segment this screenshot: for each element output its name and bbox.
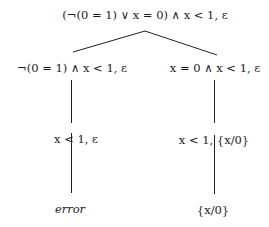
left-leaf-label: error: [55, 202, 85, 216]
edge-root-right: [145, 31, 217, 55]
right-label: x = 0 ∧ x < 1, ε: [170, 61, 261, 75]
right-child-label: x < 1, {x/0}: [179, 133, 249, 147]
root-label: (¬(0 = 1) ∨ x = 0) ∧ x < 1, ε: [62, 8, 227, 22]
left-label: ¬(0 = 1) ∧ x < 1, ε: [17, 61, 127, 75]
right-leaf-label: {x/0}: [197, 203, 229, 217]
right-child-node: x < 1, {x/0}: [179, 133, 249, 147]
left-leaf-node: error: [55, 202, 85, 216]
left-node: ¬(0 = 1) ∧ x < 1, ε: [17, 61, 127, 75]
left-child-label: x < 1, ε: [54, 132, 98, 146]
left-child-node: x < 1, ε: [54, 132, 98, 146]
root-node: (¬(0 = 1) ∨ x = 0) ∧ x < 1, ε: [62, 8, 227, 22]
tree-edges: [0, 0, 269, 227]
right-leaf-node: {x/0}: [197, 203, 229, 217]
right-node: x = 0 ∧ x < 1, ε: [170, 61, 261, 75]
edge-root-left: [73, 31, 145, 52]
